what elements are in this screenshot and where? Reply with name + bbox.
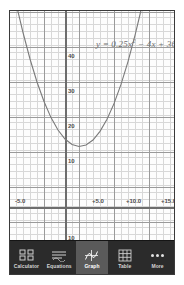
tab-equations[interactable]: Equations: [43, 241, 76, 274]
tab-more-label: More: [151, 264, 163, 269]
tab-calculator[interactable]: Calculator: [10, 241, 43, 274]
tab-table[interactable]: Table: [108, 241, 141, 274]
tab-calculator-label: Calculator: [14, 264, 39, 269]
tab-graph-label: Graph: [84, 264, 99, 269]
tab-more[interactable]: More: [141, 241, 174, 274]
y-tick-40: 40: [68, 53, 75, 59]
keypad-icon: [18, 248, 35, 263]
app-screen: y = 0.25x2 − 4x + 36 40 30 20 10 10 -5.0…: [0, 0, 184, 285]
equation-rest: − 4x + 36: [136, 39, 174, 49]
y-tick-10: 10: [68, 158, 75, 164]
y-tick-30: 30: [68, 88, 75, 94]
x-tick-5: +5.0: [92, 198, 104, 204]
more-dot-3: [161, 254, 164, 257]
x-tick-10: +10.0: [126, 198, 141, 204]
y-tick-20: 20: [68, 123, 75, 129]
more-dot-2: [156, 254, 159, 257]
x-tick-neg5: -5.0: [15, 198, 25, 204]
more-dots-icon: [149, 248, 166, 263]
tab-graph[interactable]: Graph: [76, 241, 109, 274]
equation-main: y = 0.25x: [96, 39, 132, 49]
x-tick-15: +15.0: [161, 198, 174, 204]
tab-table-label: Table: [118, 264, 131, 269]
graph-canvas[interactable]: y = 0.25x2 − 4x + 36 40 30 20 10 10 -5.0…: [10, 11, 174, 243]
equation-annotation: y = 0.25x2 − 4x + 36: [96, 37, 174, 49]
bottom-tab-bar: Calculator Equations G: [10, 240, 174, 274]
more-dot-1: [151, 254, 154, 257]
equations-icon: [51, 248, 68, 263]
tab-equations-label: Equations: [47, 264, 72, 269]
table-icon: [116, 248, 133, 263]
graph-icon: [83, 248, 100, 263]
device-frame: y = 0.25x2 − 4x + 36 40 30 20 10 10 -5.0…: [9, 10, 175, 275]
